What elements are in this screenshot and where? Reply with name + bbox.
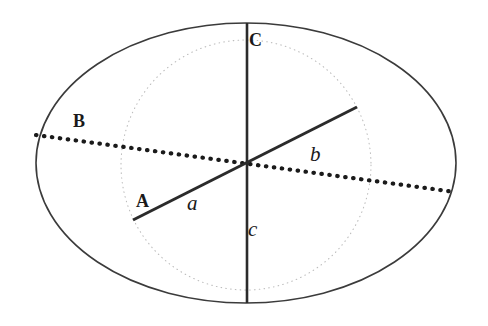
semi-axis-label-a: a — [187, 193, 198, 214]
semi-axis-label-c: c — [248, 219, 257, 240]
diagonal-axis-line — [133, 107, 357, 220]
axis-label-A: A — [136, 192, 149, 210]
axis-label-B: B — [73, 112, 85, 130]
semi-axis-label-b: b — [310, 144, 321, 165]
axis-label-C: C — [249, 31, 262, 49]
ellipse-axes-diagram: C B A a b c — [0, 0, 488, 326]
diagram-canvas — [0, 0, 488, 326]
